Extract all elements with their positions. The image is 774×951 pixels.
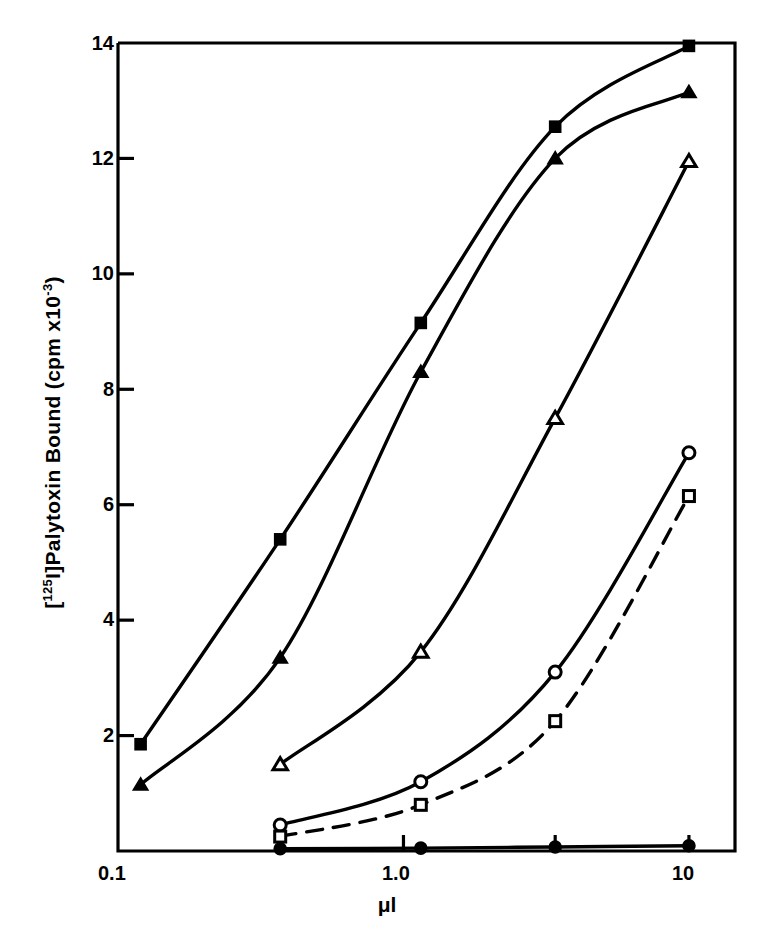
marker-filled-circle-1 <box>415 842 427 854</box>
series-markers-filled-triangle <box>133 85 696 790</box>
marker-filled-circle-3 <box>683 840 695 852</box>
tick-marks <box>118 158 689 851</box>
marker-open-triangle-3 <box>682 154 697 166</box>
marker-filled-square-4 <box>683 40 694 51</box>
marker-open-square-1 <box>415 799 426 810</box>
series-markers-open-triangle <box>273 154 696 769</box>
series-line-filled-circle <box>280 846 689 849</box>
marker-filled-square-0 <box>135 739 146 750</box>
marker-filled-square-2 <box>415 317 426 328</box>
series-line-open-circle <box>280 453 689 825</box>
marker-open-square-2 <box>550 716 561 727</box>
marker-open-triangle-2 <box>548 411 563 423</box>
marker-open-square-0 <box>275 831 286 842</box>
marker-filled-triangle-4 <box>682 85 697 97</box>
marker-open-circle-1 <box>415 776 427 788</box>
marker-open-circle-2 <box>549 666 561 678</box>
marker-open-circle-3 <box>683 447 695 459</box>
series-markers-open-circle <box>274 447 695 831</box>
series-markers <box>133 40 696 854</box>
marker-open-square-3 <box>683 491 694 502</box>
marker-filled-triangle-2 <box>414 365 429 377</box>
marker-filled-circle-2 <box>549 841 561 853</box>
series-markers-open-square <box>275 491 695 843</box>
figure-panel: [125I]Palytoxin Bound (cpm x10-3) μl 14 … <box>0 0 774 951</box>
marker-filled-square-3 <box>550 121 561 132</box>
series-line-open-square <box>280 496 689 837</box>
series-line-open-triangle <box>280 161 689 764</box>
series-markers-filled-square <box>135 40 694 749</box>
series-lines <box>141 46 689 849</box>
marker-open-circle-0 <box>274 819 286 831</box>
series-line-filled-triangle <box>141 92 689 785</box>
series-line-filled-square <box>141 46 689 744</box>
plot-area <box>0 0 774 951</box>
marker-filled-circle-0 <box>274 843 286 855</box>
marker-filled-square-1 <box>275 534 286 545</box>
